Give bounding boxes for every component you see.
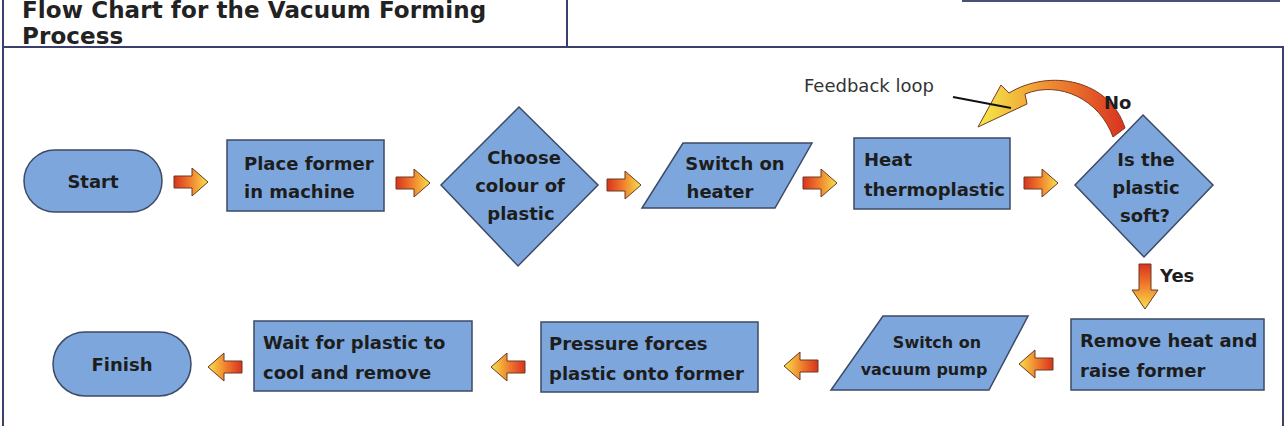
svg-text:colour of: colour of — [475, 175, 565, 196]
arrow-left-icon — [1019, 350, 1053, 378]
svg-text:cool and remove: cool and remove — [263, 362, 431, 383]
node-pressure-forces: Pressure forces plastic onto former — [541, 322, 758, 392]
arrow-left-icon — [208, 353, 242, 381]
svg-text:soft?: soft? — [1120, 205, 1170, 226]
svg-text:Remove heat and: Remove heat and — [1080, 330, 1257, 351]
svg-text:Switch on: Switch on — [685, 153, 784, 174]
svg-text:plastic: plastic — [487, 203, 554, 224]
svg-text:in machine: in machine — [244, 181, 355, 202]
svg-text:plastic: plastic — [1112, 177, 1179, 198]
svg-text:thermoplastic: thermoplastic — [864, 179, 1005, 200]
arrow-right-icon — [803, 169, 837, 197]
no-label: No — [1104, 92, 1131, 113]
svg-text:Switch on: Switch on — [893, 333, 981, 352]
svg-text:Is the: Is the — [1117, 149, 1174, 170]
svg-text:Pressure forces: Pressure forces — [549, 333, 708, 354]
svg-text:Choose: Choose — [487, 147, 561, 168]
node-is-soft: Is the plastic soft? — [1075, 115, 1213, 257]
node-finish: Finish — [53, 332, 191, 396]
node-switch-vacuum: Switch on vacuum pump — [831, 316, 1028, 390]
feedback-loop-arrow — [953, 80, 1125, 137]
node-wait-cool: Wait for plastic to cool and remove — [254, 321, 472, 391]
node-remove-heat: Remove heat and raise former — [1071, 319, 1264, 390]
svg-text:Finish: Finish — [92, 354, 153, 375]
arrow-left-icon — [491, 353, 525, 381]
arrow-right-icon — [1024, 169, 1058, 197]
svg-text:Start: Start — [67, 171, 119, 192]
svg-text:Place former: Place former — [244, 153, 374, 174]
node-heat-thermoplastic: Heat thermoplastic — [854, 138, 1010, 209]
arrow-down-icon — [1132, 264, 1158, 309]
arrow-left-icon — [784, 352, 818, 380]
svg-text:raise former: raise former — [1080, 360, 1205, 381]
node-switch-heater: Switch on heater — [642, 143, 812, 208]
node-start: Start — [24, 150, 162, 212]
node-place-former: Place former in machine — [227, 140, 384, 211]
arrow-right-icon — [174, 168, 208, 196]
feedback-loop-label: Feedback loop — [804, 75, 934, 96]
yes-label: Yes — [1159, 265, 1194, 286]
arrow-right-icon — [607, 171, 641, 199]
arrow-right-icon — [396, 169, 430, 197]
svg-text:plastic onto former: plastic onto former — [549, 363, 744, 384]
svg-text:Heat: Heat — [864, 149, 912, 170]
node-choose-colour: Choose colour of plastic — [441, 107, 598, 266]
svg-text:Wait for plastic to: Wait for plastic to — [263, 332, 445, 353]
svg-text:heater: heater — [687, 181, 754, 202]
svg-text:vacuum pump: vacuum pump — [861, 360, 988, 379]
